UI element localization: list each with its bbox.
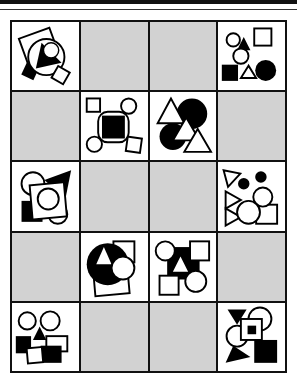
shape-figure-icon — [150, 92, 217, 160]
top-border-bar — [0, 0, 297, 4]
cell-r2-c1-empty[interactable] — [81, 162, 148, 230]
cell-r1-c1[interactable] — [81, 92, 148, 160]
shape-figure-icon — [218, 162, 285, 230]
cell-r4-c3[interactable] — [218, 303, 285, 371]
cell-r4-c0[interactable] — [12, 303, 79, 371]
shape-figure-icon — [218, 303, 285, 371]
cell-r0-c2-empty[interactable] — [150, 22, 217, 90]
shape-figure-icon — [81, 233, 148, 301]
top-rule — [0, 9, 297, 10]
cell-r1-c0-empty[interactable] — [12, 92, 79, 160]
shape-figure-icon — [150, 233, 217, 301]
cell-r0-c3[interactable] — [218, 22, 285, 90]
cell-r2-c3[interactable] — [218, 162, 285, 230]
shape-figure-icon — [12, 22, 79, 90]
cell-r3-c0-empty[interactable] — [12, 233, 79, 301]
cell-r4-c2-empty[interactable] — [150, 303, 217, 371]
cell-r4-c1-empty[interactable] — [81, 303, 148, 371]
cell-r2-c0[interactable] — [12, 162, 79, 230]
cell-r3-c1[interactable] — [81, 233, 148, 301]
shape-figure-icon — [12, 162, 79, 230]
cell-r0-c0[interactable] — [12, 22, 79, 90]
cell-r0-c1-empty[interactable] — [81, 22, 148, 90]
cell-r3-c2[interactable] — [150, 233, 217, 301]
cell-r1-c2[interactable] — [150, 92, 217, 160]
puzzle-grid — [10, 20, 287, 373]
cell-r3-c3-empty[interactable] — [218, 233, 285, 301]
shape-figure-icon — [12, 303, 79, 371]
cell-r1-c3-empty[interactable] — [218, 92, 285, 160]
cell-r2-c2-empty[interactable] — [150, 162, 217, 230]
shape-figure-icon — [81, 92, 148, 160]
shape-figure-icon — [218, 22, 285, 90]
